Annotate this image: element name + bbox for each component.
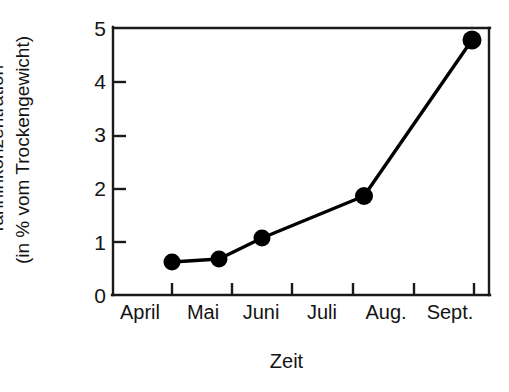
x-tick-label-aug: Aug. xyxy=(365,301,406,323)
plot-area xyxy=(0,0,509,392)
data-point-sept xyxy=(463,31,482,50)
data-point-markers xyxy=(164,31,482,271)
data-line-tanninkonzentration xyxy=(172,40,472,262)
tannin-concentration-line-chart: Tanninkonzentration (in % vom Trockengew… xyxy=(0,0,509,392)
x-tick-label-juli: Juli xyxy=(307,301,337,323)
x-tick-label-mai: Mai xyxy=(187,301,219,323)
x-tick-label-april: April xyxy=(120,301,160,323)
data-point-mai xyxy=(211,251,228,268)
x-axis-title: Zeit xyxy=(0,350,509,372)
data-point-juni xyxy=(254,230,271,247)
data-point-aug xyxy=(355,187,373,205)
x-tick-label-juni: Juni xyxy=(243,301,280,323)
x-axis-ticks xyxy=(172,283,474,295)
x-axis-title-text: Zeit xyxy=(270,350,303,372)
x-tick-label-sept: Sept. xyxy=(427,301,474,323)
data-point-april xyxy=(164,254,181,271)
y-axis-ticks xyxy=(113,82,126,242)
